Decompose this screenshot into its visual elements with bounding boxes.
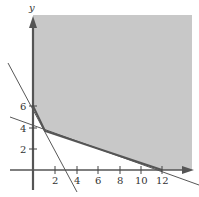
x-tick-label: 4 [74,175,80,186]
x-tick-label: 2 [52,175,58,186]
y-tick-label: 4 [20,123,26,134]
y-tick-label: 6 [20,101,26,112]
feasible-region-chart: y 2 4 6 8 10 12 2 4 6 [0,0,199,197]
y-tick-label: 2 [20,144,26,155]
x-tick-label: 8 [117,175,123,186]
x-tick-label: 12 [156,175,169,186]
x-tick-label: 6 [95,175,101,186]
feasible-region [33,15,192,170]
y-axis-label: y [28,2,35,13]
x-tick-label: 10 [135,175,148,186]
